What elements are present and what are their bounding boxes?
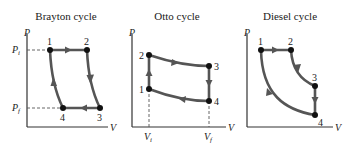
otto-diagram: Otto cycle P V Vi Vf 1 2 3 4 bbox=[128, 10, 236, 144]
diesel-label-2: 2 bbox=[288, 36, 293, 47]
brayton-point-3 bbox=[97, 105, 103, 111]
brayton-label-3: 3 bbox=[97, 112, 102, 123]
brayton-diagram: Brayton cycle P V Pi Pf 1 2 3 4 bbox=[11, 10, 118, 133]
otto-label-4: 4 bbox=[214, 96, 219, 107]
brayton-pi-label: Pi bbox=[11, 44, 20, 57]
diesel-label-1: 1 bbox=[258, 36, 263, 47]
diesel-label-4: 4 bbox=[318, 117, 323, 128]
diesel-point-1 bbox=[258, 47, 264, 53]
diesel-diagram: Diesel cycle P V 1 2 3 4 bbox=[243, 10, 343, 133]
arrow-icon bbox=[272, 47, 279, 54]
arrow-icon bbox=[171, 59, 179, 66]
arrow-icon bbox=[51, 77, 58, 86]
brayton-y-axis-label: P bbox=[23, 27, 30, 38]
otto-title: Otto cycle bbox=[154, 10, 200, 22]
arrow-icon bbox=[80, 105, 87, 112]
brayton-x-axis-label: V bbox=[110, 122, 118, 133]
brayton-label-1: 1 bbox=[47, 36, 52, 47]
thermodynamic-cycles-figure: Brayton cycle P V Pi Pf 1 2 3 4 Otto cyc… bbox=[0, 0, 351, 151]
diesel-label-3: 3 bbox=[312, 72, 317, 83]
brayton-pf-label: Pf bbox=[11, 102, 21, 115]
otto-label-1: 1 bbox=[139, 84, 144, 95]
arrow-icon bbox=[65, 47, 72, 54]
brayton-label-2: 2 bbox=[84, 36, 89, 47]
brayton-point-1 bbox=[47, 47, 53, 53]
arrow-icon bbox=[87, 75, 95, 85]
diesel-x-axis-label: V bbox=[335, 122, 343, 133]
arrow-icon bbox=[312, 97, 319, 104]
otto-label-2: 2 bbox=[139, 50, 144, 61]
arrow-icon bbox=[146, 69, 153, 76]
diesel-title: Diesel cycle bbox=[263, 10, 317, 22]
otto-vi-label: Vi bbox=[144, 131, 152, 144]
diesel-point-3 bbox=[312, 83, 318, 89]
otto-point-1 bbox=[146, 86, 152, 92]
otto-point-2 bbox=[146, 52, 152, 58]
otto-x-axis-label: V bbox=[228, 122, 236, 133]
otto-path-4-1 bbox=[149, 89, 209, 101]
brayton-path-4-1 bbox=[50, 50, 63, 108]
diesel-y-axis-label: P bbox=[243, 27, 250, 38]
otto-path-2-3 bbox=[149, 55, 209, 66]
otto-point-4 bbox=[206, 98, 212, 104]
brayton-title: Brayton cycle bbox=[35, 10, 97, 22]
brayton-point-2 bbox=[84, 47, 90, 53]
otto-y-axis-label: P bbox=[128, 27, 135, 38]
brayton-label-4: 4 bbox=[60, 112, 65, 123]
diesel-point-2 bbox=[288, 47, 294, 53]
otto-vf-label: Vf bbox=[204, 131, 213, 144]
otto-label-3: 3 bbox=[214, 61, 219, 72]
arrow-icon bbox=[206, 80, 213, 87]
otto-point-3 bbox=[206, 63, 212, 69]
brayton-point-4 bbox=[60, 105, 66, 111]
